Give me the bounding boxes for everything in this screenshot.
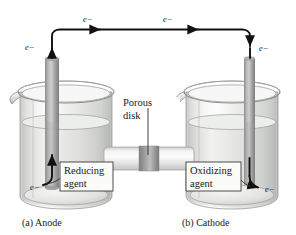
right-cell-electron-label: e− [265, 184, 275, 194]
right-cell-caption: (b) Cathode [182, 217, 230, 229]
left-cell-caption: (a) Anode [22, 217, 62, 229]
oxidizing-agent-label-line2: agent [190, 178, 213, 189]
external-circuit-wire [52, 30, 250, 59]
right-electrode-rod-upper [244, 58, 255, 122]
reducing-agent-label-line2: agent [64, 178, 87, 189]
right-liquid-surface [188, 115, 276, 130]
galvanic-cell-figure: e− e− e− e− e− e− Porous disk Reducing [0, 0, 296, 235]
connecting-tube [104, 146, 194, 171]
left-electrode-bottom-cap [45, 186, 59, 190]
electron-label-top-right: e− [163, 14, 173, 24]
reducing-agent-label-line1: Reducing [64, 165, 105, 176]
right-rim-inner [188, 85, 276, 102]
electron-label-top-left: e− [83, 14, 93, 24]
left-rim-inner [22, 85, 110, 102]
porous-disk-callout: Porous disk [116, 97, 180, 155]
wire-top-left-segment [52, 30, 100, 51]
oxidizing-agent-callout: Oxidizing agent [186, 162, 250, 191]
cell-diagram-canvas: e− e− e− e− e− e− Porous disk Reducing [0, 0, 296, 235]
left-liquid-surface [22, 115, 110, 130]
porous-disk-label-line1: Porous [123, 97, 152, 108]
left-cell-electron-label: e− [30, 182, 40, 192]
oxidizing-agent-label-line1: Oxidizing [190, 165, 233, 176]
porous-disk-label-line2: disk [123, 110, 141, 121]
porous-disk [139, 146, 159, 171]
electron-label-right-outer: e− [259, 43, 269, 53]
left-electrode-rod-upper [45, 58, 59, 122]
electron-label-left-outer: e− [25, 42, 35, 52]
wire-top-right-segment [198, 30, 250, 47]
